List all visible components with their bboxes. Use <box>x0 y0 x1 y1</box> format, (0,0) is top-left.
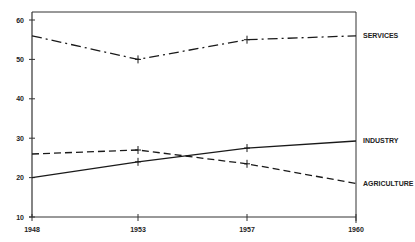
y-tick-label: 50 <box>16 56 24 63</box>
series-line-services <box>32 36 356 60</box>
line-chart: 1020304050601948195319571960SERVICESINDU… <box>0 0 415 242</box>
series-line-industry <box>32 141 356 178</box>
x-tick-label: 1948 <box>24 226 40 233</box>
y-tick-label: 10 <box>16 214 24 221</box>
series-label-industry: INDUSTRY <box>363 137 399 144</box>
series-label-services: SERVICES <box>363 32 399 39</box>
y-tick-label: 40 <box>16 95 24 102</box>
y-tick-label: 60 <box>16 17 24 24</box>
y-tick-label: 20 <box>16 174 24 181</box>
x-tick-label: 1960 <box>348 226 364 233</box>
chart-series <box>32 36 356 184</box>
x-tick-label: 1957 <box>239 226 255 233</box>
chart-labels: 1020304050601948195319571960SERVICESINDU… <box>16 17 414 234</box>
y-tick-label: 30 <box>16 135 24 142</box>
chart-axes <box>29 12 356 223</box>
series-label-agriculture: AGRICULTURE <box>363 180 414 187</box>
x-tick-label: 1953 <box>130 226 146 233</box>
